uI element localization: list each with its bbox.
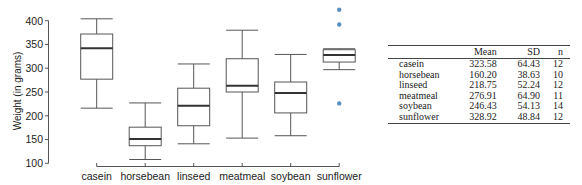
cell-name: casein <box>388 59 463 70</box>
y-tick-label: 250 <box>25 86 43 98</box>
header-group <box>388 46 463 59</box>
y-tick-label: 400 <box>25 15 43 27</box>
cell-n: 12 <box>540 112 570 123</box>
outlier-point <box>337 8 341 12</box>
cell-mean: 328.92 <box>463 112 497 123</box>
iqr-box <box>275 82 307 113</box>
iqr-box <box>129 127 161 146</box>
box-sunflower <box>323 8 355 106</box>
box-meatmeal <box>226 30 258 138</box>
y-tick-label: 350 <box>25 38 43 50</box>
table-header-row: Mean SD n <box>388 46 570 59</box>
cell-sd: 64.43 <box>497 59 540 70</box>
x-axis: caseinhorsebeanlinseedmeatmealsoybeansun… <box>82 163 363 182</box>
x-category-label: meatmeal <box>219 170 265 182</box>
box-casein <box>81 19 113 108</box>
x-category-label: linseed <box>177 170 210 182</box>
y-tick-label: 300 <box>25 62 43 74</box>
box-linseed <box>178 64 210 144</box>
table-row: casein 323.58 64.43 12 <box>388 59 570 70</box>
box-soybean <box>275 54 307 135</box>
iqr-box <box>226 59 258 92</box>
x-category-label: horsebean <box>120 170 170 182</box>
iqr-box <box>81 34 113 79</box>
header-mean: Mean <box>463 46 497 59</box>
y-axis-title: Weight (in grams) <box>12 52 23 131</box>
y-tick-label: 150 <box>25 133 43 145</box>
table-row: sunflower 328.92 48.84 12 <box>388 112 570 123</box>
x-category-label: soybean <box>271 170 311 182</box>
cell-n: 12 <box>540 59 570 70</box>
iqr-box <box>178 88 210 126</box>
box-horsebean <box>129 103 161 160</box>
y-axis: 100150200250300350400 <box>25 15 48 170</box>
header-n: n <box>540 46 570 59</box>
outlier-point <box>337 101 341 105</box>
y-tick-label: 100 <box>25 157 43 169</box>
y-tick-label: 200 <box>25 110 43 122</box>
boxplot-chart: 100150200250300350400 caseinhorsebeanlin… <box>0 0 370 185</box>
x-category-label: sunflower <box>317 170 362 182</box>
header-sd: SD <box>497 46 540 59</box>
outlier-point <box>337 22 341 26</box>
cell-name: sunflower <box>388 112 463 123</box>
boxes <box>81 8 356 160</box>
cell-sd: 48.84 <box>497 112 540 123</box>
cell-mean: 323.58 <box>463 59 497 70</box>
summary-statistics-table: Mean SD n casein 323.58 64.43 12 horsebe… <box>388 45 570 124</box>
x-category-label: casein <box>82 170 113 182</box>
